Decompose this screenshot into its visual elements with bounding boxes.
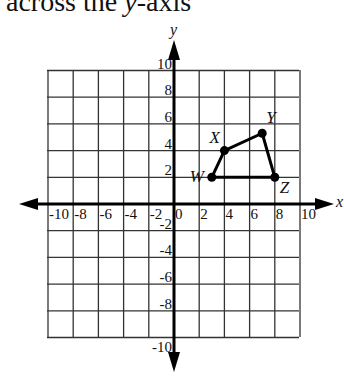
quadrilateral-wxyz (212, 133, 275, 177)
y-tick-label: -2 (160, 216, 173, 232)
x-axis-left-arrow-icon (19, 198, 38, 210)
x-axis-label: x (335, 193, 343, 210)
vertex-label-w: W (190, 167, 206, 186)
x-tick-label: 8 (276, 206, 284, 222)
x-tick-label: -6 (99, 206, 112, 222)
y-tick-label: 6 (165, 109, 173, 125)
y-axis-down-arrow-icon (168, 352, 180, 372)
x-tick-label: 10 (301, 206, 316, 222)
x-tick-label: -10 (49, 206, 69, 222)
x-tick-label: 6 (251, 206, 259, 222)
x-tick-label: -4 (125, 206, 138, 222)
y-tick-label: 2 (165, 162, 173, 178)
x-tick-label: 2 (200, 206, 208, 222)
x-tick-label: 4 (225, 206, 233, 222)
y-axis-label: y (168, 21, 178, 39)
x-axis-right-arrow-icon (315, 198, 334, 210)
x-tick-label: -8 (74, 206, 87, 222)
coordinate-plane: xy-10-8-6-4-20246810108642-2-4-6-8-10WXY… (0, 0, 344, 377)
y-tick-label: -10 (152, 339, 172, 355)
vertex-label-x: X (208, 128, 220, 147)
vertex-point-y (258, 129, 267, 138)
vertex-label-y: Y (266, 108, 277, 127)
vertex-point-w (207, 173, 216, 182)
y-tick-label: 10 (157, 56, 172, 72)
vertex-label-z: Z (280, 178, 290, 197)
vertex-point-z (270, 173, 279, 182)
y-tick-label: 4 (165, 136, 173, 152)
y-tick-label: -6 (160, 269, 173, 285)
y-tick-label: -8 (160, 296, 173, 312)
x-tick-label: 0 (175, 206, 183, 222)
vertex-point-x (220, 146, 229, 155)
y-tick-label: -4 (160, 242, 173, 258)
y-tick-label: 8 (165, 82, 173, 98)
